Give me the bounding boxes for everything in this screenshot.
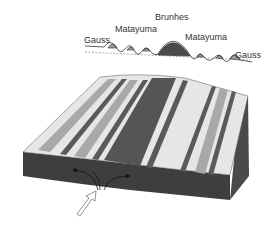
label-matayuma-left: Matayuma bbox=[115, 25, 157, 34]
label-matayuma-right: Matayuma bbox=[185, 33, 227, 42]
label-brunhes: Brunhes bbox=[155, 13, 189, 22]
upwelling-arrow-icon bbox=[77, 191, 96, 216]
label-gauss-left: Gauss bbox=[84, 36, 110, 45]
label-gauss-right: Gauss bbox=[235, 51, 261, 60]
seafloor-spreading-diagram: Gauss Matayuma Brunhes Matayuma Gauss bbox=[0, 0, 275, 227]
magnetic-anomaly-profile bbox=[85, 41, 252, 62]
diagram-canvas bbox=[0, 0, 275, 227]
